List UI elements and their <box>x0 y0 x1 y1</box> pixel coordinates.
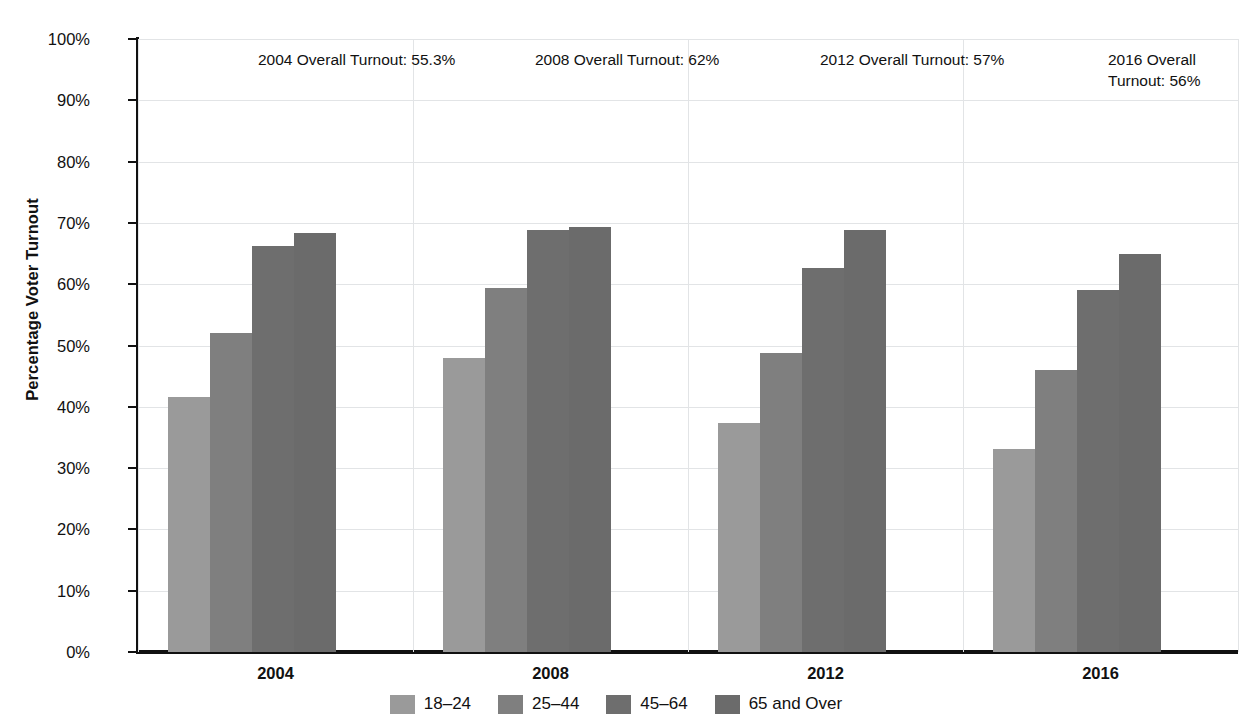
chart-legend: 18–2425–4445–6465 and Over <box>0 694 1248 714</box>
bar <box>210 333 252 652</box>
gridline-vertical <box>413 39 414 652</box>
annotation-turnout-2016: 2016 Overall Turnout: 56% <box>1108 50 1200 92</box>
gridline-vertical <box>138 39 139 652</box>
legend-item[interactable]: 45–64 <box>606 694 687 714</box>
y-tick-label: 0% <box>20 644 90 661</box>
bar <box>252 246 294 652</box>
legend-swatch-icon <box>390 695 415 714</box>
y-tick-mark <box>128 345 138 347</box>
y-tick-mark <box>128 467 138 469</box>
y-tick-mark <box>128 590 138 592</box>
y-tick-mark <box>128 222 138 224</box>
y-tick-mark <box>128 38 138 40</box>
y-tick-label: 70% <box>20 215 90 232</box>
legend-item[interactable]: 18–24 <box>390 694 471 714</box>
legend-swatch-icon <box>606 695 631 714</box>
y-tick-label: 30% <box>20 460 90 477</box>
bar <box>527 230 569 652</box>
bar <box>802 268 844 652</box>
annotation-turnout-2012: 2012 Overall Turnout: 57% <box>820 50 1004 71</box>
y-tick-label: 90% <box>20 92 90 109</box>
x-tick-label: 2012 <box>726 664 926 683</box>
y-tick-label: 10% <box>20 583 90 600</box>
legend-label: 18–24 <box>424 694 471 714</box>
bar <box>1035 370 1077 652</box>
annotation-turnout-2008: 2008 Overall Turnout: 62% <box>535 50 719 71</box>
y-tick-label: 100% <box>20 31 90 48</box>
bar <box>760 353 802 652</box>
bar <box>993 449 1035 652</box>
plot-area <box>138 39 1238 652</box>
x-tick-label: 2008 <box>451 664 651 683</box>
y-tick-mark <box>128 406 138 408</box>
gridline-vertical <box>1238 39 1239 652</box>
y-tick-label: 80% <box>20 154 90 171</box>
legend-swatch-icon <box>498 695 523 714</box>
legend-item[interactable]: 65 and Over <box>715 694 843 714</box>
x-tick-label: 2004 <box>176 664 376 683</box>
y-tick-mark <box>128 161 138 163</box>
y-tick-label: 20% <box>20 521 90 538</box>
bar <box>569 227 611 652</box>
bar <box>294 233 336 652</box>
bar <box>1119 254 1161 652</box>
gridline-vertical <box>688 39 689 652</box>
bar <box>844 230 886 652</box>
legend-label: 65 and Over <box>749 694 843 714</box>
bar <box>1077 290 1119 652</box>
bar <box>718 423 760 652</box>
y-tick-label: 40% <box>20 399 90 416</box>
x-tick-label: 2016 <box>1001 664 1201 683</box>
y-tick-mark <box>128 651 138 653</box>
annotation-turnout-2004: 2004 Overall Turnout: 55.3% <box>258 50 455 71</box>
legend-label: 45–64 <box>640 694 687 714</box>
bar-chart: Percentage Voter Turnout 0%10%20%30%40%5… <box>0 0 1248 724</box>
bar <box>485 288 527 652</box>
legend-swatch-icon <box>715 695 740 714</box>
bar <box>443 358 485 652</box>
y-tick-mark <box>128 99 138 101</box>
bar <box>168 397 210 652</box>
y-tick-mark <box>128 528 138 530</box>
legend-label: 25–44 <box>532 694 579 714</box>
y-tick-mark <box>128 283 138 285</box>
y-tick-label: 50% <box>20 338 90 355</box>
gridline-vertical <box>963 39 964 652</box>
y-tick-label: 60% <box>20 276 90 293</box>
legend-item[interactable]: 25–44 <box>498 694 579 714</box>
